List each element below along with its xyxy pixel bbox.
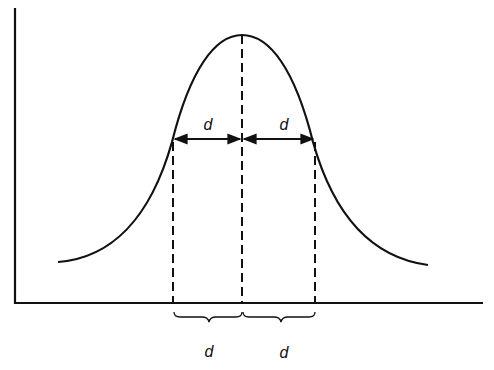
- bell-curve-diagram: d d d d: [0, 0, 494, 370]
- lower-left-label: d: [205, 343, 215, 360]
- upper-left-label: d: [204, 116, 214, 133]
- left-brace: [174, 312, 242, 322]
- upper-right-label: d: [280, 116, 290, 133]
- right-brace: [243, 312, 315, 322]
- lower-right-label: d: [280, 344, 290, 361]
